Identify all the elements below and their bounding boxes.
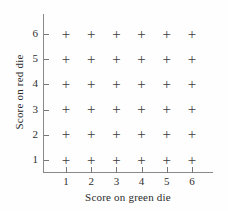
- x-axis-tick: [116, 167, 117, 173]
- plus-marker-icon: +: [60, 154, 73, 167]
- y-axis-line: [43, 14, 44, 173]
- x-axis-tick-label: 3: [108, 176, 124, 187]
- plus-marker-icon: +: [85, 53, 98, 66]
- y-axis-tick: [44, 84, 49, 85]
- plus-marker-icon: +: [60, 103, 73, 116]
- plus-marker-icon: +: [110, 103, 123, 116]
- plus-marker-icon: +: [186, 28, 199, 41]
- y-axis-tick: [44, 59, 49, 60]
- y-axis-tick: [44, 160, 49, 161]
- plus-marker-icon: +: [160, 103, 173, 116]
- plus-marker-icon: +: [186, 78, 199, 91]
- plus-marker-icon: +: [85, 128, 98, 141]
- plus-marker-icon: +: [85, 28, 98, 41]
- y-axis-title: Score on red die: [13, 17, 25, 167]
- x-axis-tick: [167, 167, 168, 173]
- y-axis-tick: [44, 135, 49, 136]
- plus-marker-icon: +: [85, 103, 98, 116]
- plus-marker-icon: +: [135, 53, 148, 66]
- plus-marker-icon: +: [186, 103, 199, 116]
- x-axis-tick: [91, 167, 92, 173]
- plus-marker-icon: +: [110, 154, 123, 167]
- x-axis-tick-label: 1: [58, 176, 74, 187]
- plus-marker-icon: +: [85, 78, 98, 91]
- plus-marker-icon: +: [160, 53, 173, 66]
- plus-marker-icon: +: [110, 53, 123, 66]
- sample-space-diagram: 123456 123456 ++++++++++++++++++++++++++…: [0, 0, 228, 211]
- plus-marker-icon: +: [110, 128, 123, 141]
- y-axis-tick: [44, 110, 49, 111]
- x-axis-tick: [66, 167, 67, 173]
- x-axis-tick: [142, 167, 143, 173]
- plus-marker-icon: +: [160, 28, 173, 41]
- x-axis-tick-label: 5: [159, 176, 175, 187]
- x-axis-tick-label: 2: [83, 176, 99, 187]
- plus-marker-icon: +: [160, 78, 173, 91]
- plus-marker-icon: +: [60, 78, 73, 91]
- plus-marker-icon: +: [110, 28, 123, 41]
- plus-marker-icon: +: [186, 128, 199, 141]
- x-axis-line: [43, 172, 213, 173]
- plus-marker-icon: +: [110, 78, 123, 91]
- x-axis-tick-label: 4: [134, 176, 150, 187]
- plus-marker-icon: +: [135, 154, 148, 167]
- x-axis-tick-label: 6: [184, 176, 200, 187]
- x-axis-title: Score on green die: [43, 191, 213, 203]
- plus-marker-icon: +: [186, 53, 199, 66]
- plus-marker-icon: +: [135, 103, 148, 116]
- plus-marker-icon: +: [85, 154, 98, 167]
- plus-marker-icon: +: [60, 28, 73, 41]
- plus-marker-icon: +: [60, 128, 73, 141]
- plus-marker-icon: +: [160, 128, 173, 141]
- y-axis-tick: [44, 34, 49, 35]
- plus-marker-icon: +: [135, 78, 148, 91]
- plus-marker-icon: +: [160, 154, 173, 167]
- plus-marker-icon: +: [135, 28, 148, 41]
- plus-marker-icon: +: [60, 53, 73, 66]
- plus-marker-icon: +: [186, 154, 199, 167]
- x-axis-tick: [192, 167, 193, 173]
- plus-marker-icon: +: [135, 128, 148, 141]
